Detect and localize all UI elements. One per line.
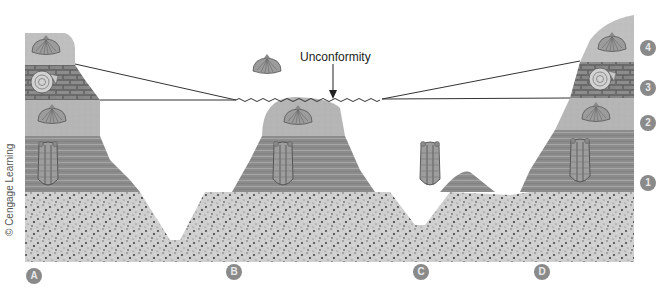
column-a-strata <box>25 33 140 192</box>
correlation-lines <box>75 61 580 100</box>
layer-label-1: 1 <box>640 175 656 191</box>
fossil-trilobite-icon <box>273 142 293 186</box>
layer-1-column-b <box>232 136 375 192</box>
layer-label-2: 2 <box>640 115 656 131</box>
unconformity-arrow-icon <box>329 64 337 99</box>
fossil-brachiopod-loose-icon <box>253 54 281 74</box>
column-label-d: D <box>534 264 550 280</box>
layer-label-3: 3 <box>640 80 656 96</box>
diagram-canvas <box>0 0 668 293</box>
fossil-trilobite-loose-icon <box>420 142 440 186</box>
column-d-strata <box>520 15 634 192</box>
column-b-strata <box>232 97 375 192</box>
column-label-c: C <box>413 264 429 280</box>
bedrock-basement <box>25 192 634 262</box>
fossil-trilobite-icon <box>38 142 58 186</box>
copyright-credit: © Cengage Learning <box>4 144 15 236</box>
unconformity-label: Unconformity <box>300 50 371 64</box>
layer-label-4: 4 <box>640 40 656 56</box>
column-label-a: A <box>26 268 42 284</box>
layer-1-mound-c <box>440 171 495 192</box>
fossil-trilobite-icon <box>570 139 590 183</box>
column-label-b: B <box>226 264 242 280</box>
unconformity-diagram: Unconformity © Cengage Learning 4 3 2 1 … <box>0 0 668 293</box>
